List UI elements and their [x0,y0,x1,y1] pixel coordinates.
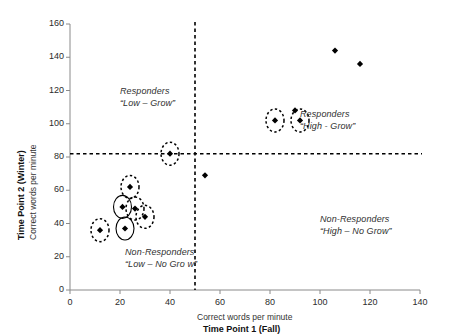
y-tick-label-140: 140 [34,51,64,61]
y-axis-title-secondary: Correct words per minute [28,145,38,240]
data-points [97,48,363,234]
x-tick-label-100: 100 [305,297,335,307]
data-point-6 [167,151,173,157]
responders-high-grow: Responders“High - Grow” [300,109,355,132]
cluster-ellipses [91,109,309,242]
data-point-2 [122,225,128,231]
x-axis-subtitle: Correct words per minute [197,312,292,322]
responders-low-grow-line1: Responders [120,86,175,98]
x-tick-label-80: 80 [255,297,285,307]
y-tick-label-0: 0 [34,284,64,294]
non-responders-high-no-grow-line2: “High – No Grow” [320,226,392,238]
y-tick-label-160: 160 [34,18,64,28]
x-axis-title: Time Point 1 (Fall) [203,324,280,334]
non-responders-low-no-grow-line1: Non-Responders [125,247,197,259]
data-point-8 [272,117,278,123]
x-tick-label-120: 120 [355,297,385,307]
responders-low-grow: Responders“Low – Grow” [120,86,175,109]
non-responders-low-no-grow-line2: “Low – No Gro w” [125,259,197,271]
data-point-0 [97,227,103,233]
data-point-7 [202,172,208,178]
y-axis-subtitle: Correct words per minute [22,145,40,240]
x-tick-label-60: 60 [205,297,235,307]
x-tick-label-40: 40 [155,297,185,307]
reference-lines [70,22,422,290]
data-point-11 [332,48,338,54]
y-tick-label-100: 100 [34,118,64,128]
non-responders-low-no-grow: Non-Responders“Low – No Gro w” [125,247,197,270]
axes [66,24,420,294]
responders-high-grow-line2: “High - Grow” [300,121,355,133]
responders-low-grow-line2: “Low – Grow” [120,98,175,110]
data-point-4 [132,205,138,211]
y-tick-label-20: 20 [34,251,64,261]
data-point-3 [127,184,133,190]
data-point-12 [357,61,363,67]
x-tick-label-20: 20 [105,297,135,307]
non-responders-high-no-grow: Non-Responders“High – No Grow” [320,214,392,237]
x-tick-label-140: 140 [405,297,435,307]
responders-high-grow-line1: Responders [300,109,355,121]
x-tick-label-0: 0 [55,297,85,307]
data-point-1 [119,204,125,210]
y-tick-label-120: 120 [34,85,64,95]
non-responders-high-no-grow-line1: Non-Responders [320,214,392,226]
